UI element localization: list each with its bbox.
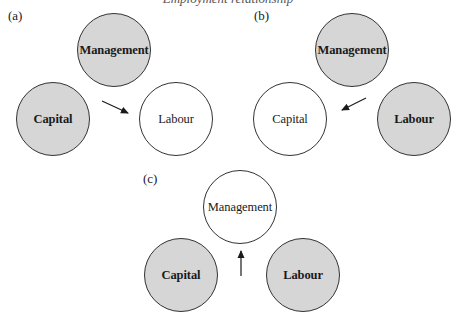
arrows-layer xyxy=(0,0,456,322)
panel-b-arrow-icon xyxy=(342,98,366,110)
panel-a-arrow-icon xyxy=(102,101,128,113)
